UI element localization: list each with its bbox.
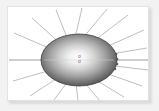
edge-marker	[116, 58, 119, 61]
edge-marker	[115, 53, 118, 56]
thumbnail-root: o o	[0, 0, 159, 111]
ray-line	[75, 8, 82, 38]
edge-marker	[116, 63, 119, 66]
starburst-figure	[8, 7, 149, 101]
edge-marker	[114, 68, 117, 71]
figure-panel[interactable]: o o	[7, 6, 149, 101]
